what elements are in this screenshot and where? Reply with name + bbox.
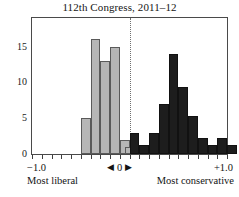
x-axis-tick-mark (178, 155, 179, 159)
bar (91, 39, 101, 154)
bar (188, 116, 198, 154)
bar (217, 138, 227, 154)
x-axis-tick-mark (227, 155, 228, 159)
left-arrow-icon: ◀ (107, 162, 115, 172)
x-axis-tick-mark (91, 155, 92, 159)
x-axis-tick-mark (110, 155, 111, 159)
x-axis-tick-mark (208, 155, 209, 159)
y-axis-tick-label: 15 (3, 42, 27, 52)
plot-area (32, 18, 227, 154)
x-axis-tick-mark (42, 155, 43, 159)
bar (169, 54, 179, 154)
x-axis-tick-mark (198, 155, 199, 159)
histogram-figure: 112th Congress, 2011–12 051015 −1.0 ◀ 0 … (0, 0, 239, 197)
x-axis-tick-mark (100, 155, 101, 159)
bar (130, 133, 140, 154)
right-arrow-icon: ▶ (125, 162, 133, 172)
x-axis-label-center: ◀ 0 ▶ (0, 162, 239, 173)
x-axis-tick-mark (159, 155, 160, 159)
bar (139, 145, 149, 154)
y-axis-tick-label: 5 (3, 113, 27, 123)
bar (100, 61, 110, 154)
x-axis-tick-mark (217, 155, 218, 159)
x-axis-tick-mark (139, 155, 140, 159)
x-axis-center-value: 0 (117, 162, 122, 173)
x-axis-tick-mark (71, 155, 72, 159)
bar (159, 104, 169, 154)
y-axis-tick-label: 0 (3, 149, 27, 159)
x-axis-tick-mark (32, 155, 33, 159)
bar (149, 133, 159, 154)
page-title: 112th Congress, 2011–12 (0, 1, 239, 13)
y-axis-tick-label: 10 (3, 77, 27, 87)
caption-most-conservative: Most conservative (157, 175, 234, 186)
x-axis-tick-mark (52, 155, 53, 159)
x-axis-tick-mark (188, 155, 189, 159)
bar (208, 145, 218, 154)
x-axis-tick-mark (169, 155, 170, 159)
x-axis-tick-mark (120, 155, 121, 159)
x-axis-tick-mark (149, 155, 150, 159)
x-axis-tick-mark (130, 155, 131, 159)
bar (178, 87, 188, 154)
bar (110, 47, 120, 154)
caption-most-liberal: Most liberal (27, 175, 78, 186)
x-axis-tick-mark (81, 155, 82, 159)
bar (198, 138, 208, 154)
bar (227, 145, 237, 154)
x-axis-label-right: +1.0 (214, 162, 233, 173)
bar (81, 118, 91, 154)
x-axis-tick-mark (61, 155, 62, 159)
